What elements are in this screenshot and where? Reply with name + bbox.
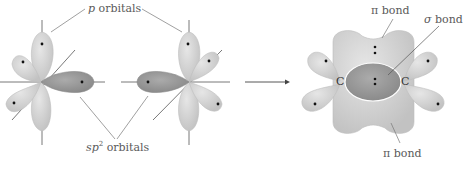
pi-bond-bottom-label: π bond [383, 148, 422, 159]
p-orbitals-label: p orbitals [88, 3, 141, 14]
sp2-orbitals-label: sp2 orbitals [86, 141, 149, 153]
sigma-bond-label: σ bond [424, 14, 463, 25]
orbital-diagram: p orbitals sp2 orbitals π bond σ bond π … [0, 0, 463, 169]
carbon-right-label: C [401, 76, 409, 87]
sigma-bond-region [345, 63, 401, 101]
pi-bond-top-label: π bond [371, 5, 410, 16]
carbon-left-label: C [336, 76, 344, 87]
left-carbon-orbitals [0, 20, 105, 145]
sp2-lobe [41, 71, 94, 92]
reaction-arrow [245, 80, 290, 85]
right-carbon-orbitals [121, 20, 230, 145]
ethylene-bonding [302, 31, 444, 134]
